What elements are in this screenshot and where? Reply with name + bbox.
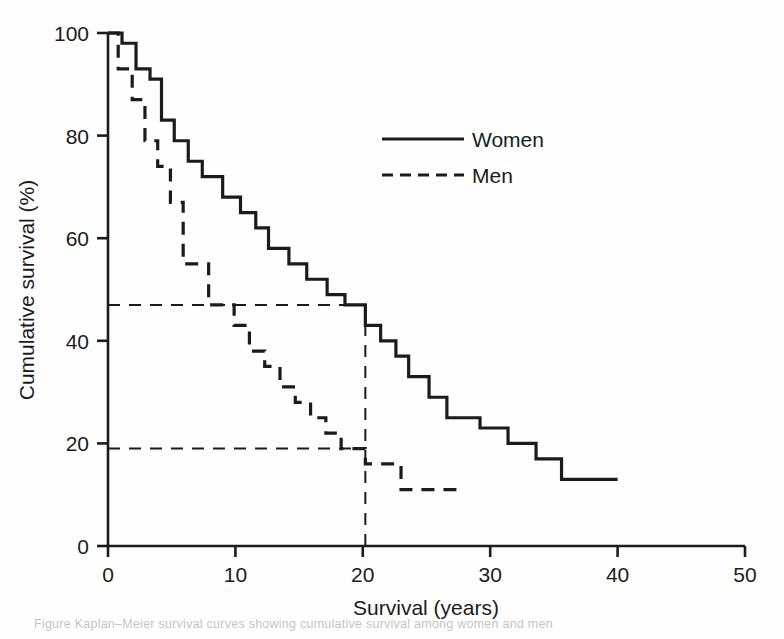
y-tick-label-60: 60 — [66, 227, 89, 250]
x-axis-ticks: 01020304050 — [102, 546, 757, 586]
x-tick-label-0: 0 — [102, 563, 114, 586]
x-tick-label-50: 50 — [733, 563, 756, 586]
y-tick-label-20: 20 — [66, 432, 89, 455]
x-tick-label-10: 10 — [224, 563, 247, 586]
x-tick-label-20: 20 — [351, 563, 374, 586]
kaplan-meier-plot: 020406080100 01020304050 Survival (years… — [0, 0, 784, 639]
legend-entry-women[interactable]: Women — [382, 128, 544, 151]
axes-group — [108, 33, 745, 546]
reference-lines-group — [108, 305, 365, 546]
y-tick-label-0: 0 — [77, 535, 89, 558]
y-tick-label-40: 40 — [66, 330, 89, 353]
y-axis-ticks: 020406080100 — [54, 22, 108, 558]
data-series-group — [108, 33, 618, 490]
figure-caption-partial: Figure Kaplan–Meier survival curves show… — [34, 617, 750, 633]
y-tick-label-100: 100 — [54, 22, 89, 45]
x-tick-label-40: 40 — [606, 563, 629, 586]
legend-entry-men[interactable]: Men — [382, 164, 513, 187]
y-axis-title: Cumulative survival (%) — [15, 180, 38, 401]
legend-label-women: Women — [472, 128, 544, 151]
y-tick-label-80: 80 — [66, 125, 89, 148]
x-axis-title: Survival (years) — [353, 596, 499, 619]
legend-label-men: Men — [472, 164, 513, 187]
survival-chart-figure: 020406080100 01020304050 Survival (years… — [0, 0, 784, 639]
chart-legend: Women Men — [382, 128, 544, 187]
x-tick-label-30: 30 — [479, 563, 502, 586]
